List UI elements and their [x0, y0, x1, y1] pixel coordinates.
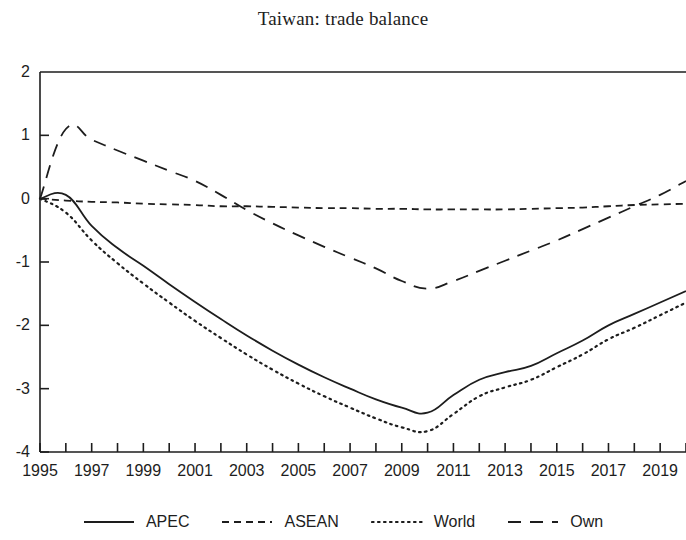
series-line-world	[40, 199, 686, 432]
legend-label: APEC	[146, 513, 190, 531]
legend-swatch-longdash-icon	[507, 515, 559, 529]
legend-entry-own[interactable]: Own	[507, 513, 603, 531]
plot-area	[0, 0, 686, 540]
x-axis-tick-label: 2019	[642, 462, 678, 480]
y-axis-tick-label: -2	[0, 316, 30, 334]
tick-marks	[40, 135, 686, 452]
legend-label: World	[434, 513, 476, 531]
x-axis-tick-label: 1999	[126, 462, 162, 480]
legend-swatch-solid-icon	[83, 515, 135, 529]
legend-label: ASEAN	[284, 513, 338, 531]
x-axis-tick-label: 2005	[281, 462, 317, 480]
y-axis-tick-label: -3	[0, 380, 30, 398]
series-line-own	[40, 125, 686, 289]
x-axis-tick-label: 2009	[384, 462, 420, 480]
legend-label: Own	[570, 513, 603, 531]
legend-swatch-dashed-icon	[221, 515, 273, 529]
x-axis-tick-label: 2003	[229, 462, 265, 480]
y-axis-tick-label: 0	[0, 190, 30, 208]
y-axis-tick-label: 2	[0, 63, 30, 81]
series-line-asean	[40, 199, 686, 210]
legend-swatch-dotted-icon	[371, 515, 423, 529]
x-axis-tick-label: 2001	[177, 462, 213, 480]
chart-figure: Taiwan: trade balance 210-1-2-3-41995199…	[0, 0, 686, 540]
x-axis-tick-label: 2013	[487, 462, 523, 480]
data-series-group	[40, 125, 686, 433]
x-axis-tick-label: 2017	[591, 462, 627, 480]
chart-legend: APECASEANWorldOwn	[0, 505, 686, 539]
legend-entry-asean[interactable]: ASEAN	[221, 513, 338, 531]
x-axis-tick-label: 2007	[332, 462, 368, 480]
y-axis-tick-label: -1	[0, 253, 30, 271]
legend-entry-apec[interactable]: APEC	[83, 513, 190, 531]
x-axis-tick-label: 1995	[22, 462, 58, 480]
y-axis-tick-label: -4	[0, 443, 30, 461]
x-axis-tick-label: 2015	[539, 462, 575, 480]
x-axis-tick-label: 2011	[436, 462, 470, 480]
x-axis-tick-label: 1997	[74, 462, 110, 480]
y-axis-tick-label: 1	[0, 126, 30, 144]
legend-entry-world[interactable]: World	[371, 513, 476, 531]
